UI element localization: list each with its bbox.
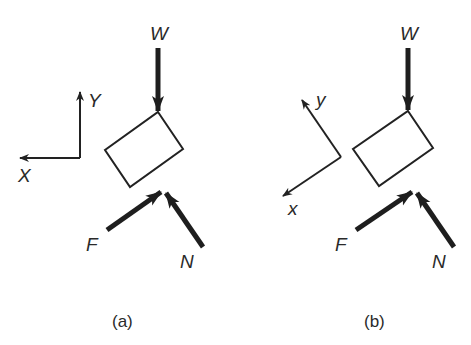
friction-label: F (86, 234, 99, 255)
normal-force-arrow (166, 193, 203, 247)
normal-force-arrow (417, 193, 454, 247)
x-axis-label: x (287, 198, 299, 219)
x-axis-arrow (283, 157, 341, 196)
y-axis-label: Y (88, 90, 102, 111)
axes-b: y x (283, 89, 341, 219)
friction-label: F (335, 234, 348, 255)
panel-a: Y X W F N (a) (17, 23, 203, 331)
caption-b: (b) (364, 312, 385, 331)
axes-a: Y X (17, 90, 102, 186)
normal-label: N (432, 251, 446, 272)
x-axis-label: X (17, 165, 32, 186)
weight-label: W (150, 23, 170, 44)
friction-force-arrow (356, 192, 412, 230)
friction-force-arrow (107, 192, 161, 230)
panel-b: y x W F N (b) (283, 23, 454, 331)
caption-a: (a) (112, 312, 133, 331)
block (105, 112, 183, 187)
block (353, 111, 433, 186)
weight-label: W (400, 23, 420, 44)
y-axis-label: y (314, 89, 327, 110)
normal-label: N (180, 251, 194, 272)
free-body-diagram: Y X W F N (a) y x W F N (0, 0, 471, 345)
